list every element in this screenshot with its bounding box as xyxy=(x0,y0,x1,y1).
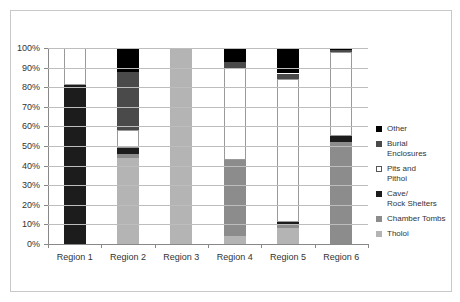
y-tick-mark xyxy=(44,166,48,167)
y-tick-label: 90% xyxy=(4,63,40,73)
bar-segment-tholoi xyxy=(117,158,139,244)
legend-swatch-icon xyxy=(376,141,382,147)
legend-label: Other xyxy=(387,124,407,134)
gridline xyxy=(48,48,368,49)
gridline xyxy=(48,205,368,206)
bar-segment-burial xyxy=(277,74,299,80)
x-tick-label: Region 6 xyxy=(311,252,371,262)
y-tick-label: 40% xyxy=(4,161,40,171)
x-tick-mark xyxy=(261,244,262,248)
y-tick-label: 100% xyxy=(4,43,40,53)
y-tick-mark xyxy=(44,87,48,88)
y-tick-mark xyxy=(44,126,48,127)
y-tick-mark xyxy=(44,146,48,147)
y-tick-mark xyxy=(44,185,48,186)
legend-swatch-icon xyxy=(376,216,382,222)
bar-segment-burial xyxy=(117,72,139,131)
x-tick-label: Region 1 xyxy=(45,252,105,262)
x-tick-mark xyxy=(368,244,369,248)
x-tick-mark xyxy=(101,244,102,248)
x-tick-label: Region 4 xyxy=(205,252,265,262)
y-tick-mark xyxy=(44,48,48,49)
gridline xyxy=(48,126,368,127)
y-tick-mark xyxy=(44,224,48,225)
legend-item: Other xyxy=(376,124,450,134)
x-tick-label: Region 3 xyxy=(151,252,211,262)
legend-swatch-icon xyxy=(376,231,382,237)
bar-segment-chamber xyxy=(117,154,139,158)
legend-swatch-icon xyxy=(376,126,382,132)
legend-label: Pits and Pithoi xyxy=(387,164,416,184)
legend-item: Cave/ Rock Shelters xyxy=(376,189,450,209)
y-tick-label: 10% xyxy=(4,219,40,229)
bar-segment-other xyxy=(277,48,299,73)
gridline xyxy=(48,146,368,147)
legend-swatch-icon xyxy=(376,191,382,197)
y-tick-label: 80% xyxy=(4,82,40,92)
x-tick-label: Region 5 xyxy=(258,252,318,262)
bar-segment-other xyxy=(224,48,246,62)
bar-segment-cave xyxy=(330,136,352,142)
gridline xyxy=(48,87,368,88)
bar-segment-chamber xyxy=(330,142,352,244)
legend-item: Tholoi xyxy=(376,229,450,239)
legend-item: Chamber Tombs xyxy=(376,214,450,224)
y-tick-label: 60% xyxy=(4,121,40,131)
legend-item: Pits and Pithoi xyxy=(376,164,450,184)
bar-segment-cave xyxy=(117,148,139,154)
bar-segment-burial xyxy=(330,50,352,52)
legend-label: Cave/ Rock Shelters xyxy=(387,189,437,209)
gridline xyxy=(48,68,368,69)
y-tick-mark xyxy=(44,205,48,206)
legend-swatch-icon xyxy=(376,166,382,172)
x-tick-mark xyxy=(48,244,49,248)
y-tick-label: 20% xyxy=(4,200,40,210)
x-tick-mark xyxy=(155,244,156,248)
y-tick-label: 0% xyxy=(4,239,40,249)
bar-segment-tholoi xyxy=(224,236,246,244)
bar-segment-pits xyxy=(330,52,352,136)
bar-segment-tholoi xyxy=(277,228,299,244)
legend-item: Burial Enclosures xyxy=(376,139,450,159)
bar-segment-pits xyxy=(277,79,299,222)
legend-label: Tholoi xyxy=(387,229,409,239)
gridline xyxy=(48,185,368,186)
y-tick-mark xyxy=(44,107,48,108)
y-tick-label: 70% xyxy=(4,102,40,112)
gridline xyxy=(48,224,368,225)
x-tick-mark xyxy=(315,244,316,248)
gridline xyxy=(48,107,368,108)
y-tick-mark xyxy=(44,68,48,69)
legend-label: Burial Enclosures xyxy=(387,139,427,159)
legend-label: Chamber Tombs xyxy=(387,214,446,224)
x-tick-label: Region 2 xyxy=(98,252,158,262)
y-tick-label: 30% xyxy=(4,180,40,190)
x-tick-mark xyxy=(208,244,209,248)
gridline xyxy=(48,166,368,167)
chart-legend: OtherBurial EnclosuresPits and PithoiCav… xyxy=(376,124,450,244)
y-tick-label: 50% xyxy=(4,141,40,151)
